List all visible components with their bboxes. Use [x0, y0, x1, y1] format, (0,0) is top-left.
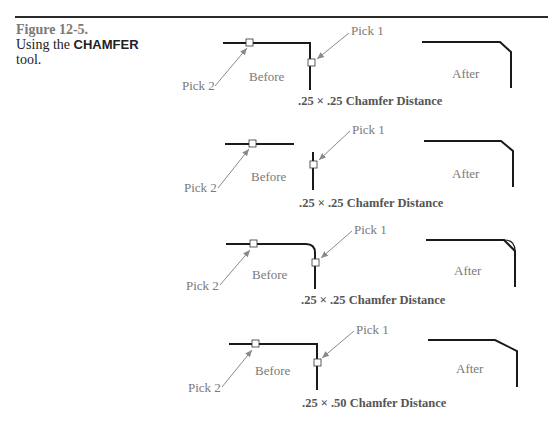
arrow-icon — [220, 250, 250, 285]
pick-box-icon — [314, 359, 321, 366]
pick-box-icon — [246, 39, 253, 46]
panel-3: Pick 2 Pick 1 Before After .25 × .25 Cha… — [186, 222, 515, 307]
pick-box-icon — [312, 259, 319, 266]
before-label: Before — [255, 363, 291, 378]
panel-4: Pick 2 Pick 1 Before After .25 × .50 Cha… — [188, 322, 517, 410]
arrow-icon — [321, 231, 352, 258]
pick-1-label: Pick 1 — [356, 322, 389, 337]
arrow-icon — [317, 33, 349, 59]
arrow-icon — [222, 350, 252, 387]
pick-box-icon — [250, 240, 257, 247]
pick-2-label: Pick 2 — [186, 278, 219, 293]
before-drawing: Pick 2 Pick 1 Before — [186, 222, 387, 293]
pick-box-icon — [308, 59, 315, 66]
panel-caption: .25 × .25 Chamfer Distance — [301, 293, 446, 307]
pick-1-label: Pick 1 — [354, 222, 387, 237]
pick-1-label: Pick 1 — [352, 122, 385, 137]
after-label: After — [456, 361, 484, 376]
before-drawing: Pick 2 Pick 1 Before — [188, 322, 389, 395]
pick-2-label: Pick 2 — [188, 380, 221, 395]
before-label: Before — [249, 69, 285, 84]
pick-box-icon — [252, 340, 259, 347]
panel-2: Pick 2 Pick 1 Before After .25 × .25 Cha… — [184, 122, 513, 210]
before-label: Before — [251, 169, 287, 184]
pick-2-label: Pick 2 — [182, 78, 215, 93]
pick-box-icon — [249, 140, 256, 147]
panel-caption: .25 × .25 Chamfer Distance — [299, 196, 444, 210]
panel-caption: .25 × .25 Chamfer Distance — [298, 94, 443, 108]
after-drawing: After — [426, 240, 515, 287]
after-label: After — [454, 263, 482, 278]
pick-2-label: Pick 2 — [184, 180, 217, 195]
arrow-icon — [218, 149, 249, 188]
before-drawing: Pick 2 Pick 1 Before — [184, 122, 385, 195]
pick-1-label: Pick 1 — [351, 23, 384, 38]
arrow-icon — [215, 48, 247, 86]
after-drawing: After — [428, 340, 517, 387]
after-drawing: After — [422, 42, 511, 88]
before-label: Before — [252, 267, 288, 282]
chamfer-illustration: Pick 2 Pick 1 Before After .25 × .25 Cha… — [0, 0, 554, 428]
arrow-icon — [319, 131, 350, 160]
after-label: After — [452, 166, 480, 181]
pick-box-icon — [310, 161, 317, 168]
after-label: After — [452, 66, 480, 81]
before-drawing: Pick 2 Pick 1 Before — [182, 23, 384, 93]
arrow-icon — [322, 331, 354, 358]
panel-1: Pick 2 Pick 1 Before After .25 × .25 Cha… — [182, 23, 511, 108]
after-drawing: After — [424, 141, 513, 187]
panel-caption: .25 × .50 Chamfer Distance — [302, 396, 447, 410]
